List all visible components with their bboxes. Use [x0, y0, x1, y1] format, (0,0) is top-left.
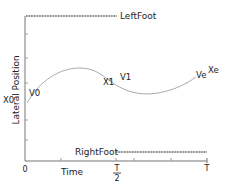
y-axis-label: Lateral Position — [11, 55, 21, 124]
half-period-denominator: 2 — [114, 174, 119, 183]
xe-label: Xe — [208, 65, 219, 75]
v1-label: V1 — [120, 72, 131, 82]
v0-label: V0 — [29, 88, 40, 98]
x-origin-label: 0 — [22, 165, 27, 174]
x0-label: X0 — [3, 95, 14, 105]
trajectory-diagram: Lateral Position Time 0 T 2 T X0 V0 X1 V… — [0, 0, 230, 189]
x-axis-label: Time — [60, 167, 83, 177]
ve-label: Ve — [196, 70, 206, 80]
right-foot-label: RightFoot — [75, 147, 119, 157]
half-period-numerator: T — [114, 164, 120, 173]
x1-label: X1 — [103, 77, 114, 87]
period-end-label: T — [204, 164, 210, 173]
left-foot-label: LeftFoot — [120, 11, 157, 21]
